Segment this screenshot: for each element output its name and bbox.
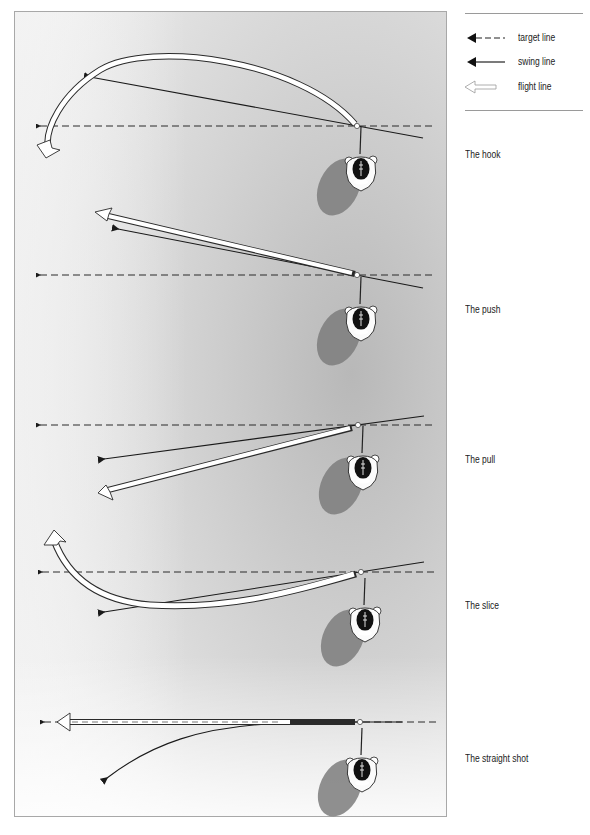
ball [357, 719, 362, 724]
solid-arrow-icon [467, 57, 505, 67]
diagram-panel [14, 11, 447, 817]
legend-top-rule [465, 13, 583, 14]
legend-label: target line [518, 30, 555, 46]
shot-label-slice: The slice [465, 600, 499, 611]
legend-icons [465, 33, 505, 93]
shot-label-straight: The straight shot [465, 753, 528, 764]
legend-label: flight line [518, 79, 552, 95]
dashed-arrow-icon [467, 33, 505, 43]
ball [358, 569, 363, 574]
shot-label-push: The push [465, 304, 500, 315]
ball [354, 123, 359, 128]
legend-bottom-rule [465, 110, 583, 111]
ball [354, 272, 359, 277]
ball [355, 422, 360, 427]
shot-label-pull: The pull [465, 454, 495, 465]
diagram-canvas [0, 0, 590, 835]
legend-label: swing line [518, 54, 555, 70]
shot-label-hook: The hook [465, 149, 500, 160]
hollow-arrow-icon [465, 81, 496, 93]
